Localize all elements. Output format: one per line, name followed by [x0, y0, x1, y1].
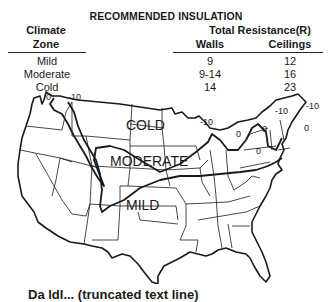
us-climate-zone-map: COLD MODERATE MILD 0 -10 -10 0 -10 -10 0… — [0, 84, 332, 284]
zone-label-cold: COLD — [126, 117, 165, 133]
isotherm-label: -10 — [200, 117, 213, 127]
walls-cell: 9 — [180, 54, 240, 68]
climate-zone-header-line1: Climate — [8, 23, 84, 37]
zone-cell: Mild — [8, 54, 86, 68]
climate-zone-header: Climate Zone — [8, 23, 84, 51]
ceilings-header: Ceilings — [255, 37, 325, 51]
total-resistance-header: Total Resistance(R) — [190, 23, 330, 37]
ceilings-cell: 12 — [255, 54, 325, 68]
zone-cell: Moderate — [8, 67, 86, 81]
isotherm-label: 0 — [262, 124, 267, 134]
walls-header: Walls — [180, 37, 240, 51]
isotherm-label: 0 — [256, 146, 261, 156]
isotherm-label: 0 — [46, 92, 51, 102]
zone-label-moderate: MODERATE — [110, 153, 188, 169]
zone-label-mild: MILD — [126, 197, 159, 213]
truncated-caption: Da ldl... (truncated text line) — [28, 287, 198, 302]
ceilings-cell: 16 — [255, 67, 325, 81]
isotherm-label: -10 — [68, 92, 81, 102]
table-row: Moderate 9-14 16 — [0, 67, 332, 81]
isotherm-label: -10 — [275, 106, 288, 116]
header-divider-left — [8, 52, 86, 53]
header-divider-right — [173, 52, 323, 53]
walls-cell: 9-14 — [180, 67, 240, 81]
table-row: Mild 9 12 — [0, 54, 332, 68]
page-title: RECOMMENDED INSULATION — [0, 10, 332, 22]
isotherm-label: 0 — [304, 123, 309, 133]
isotherm-label: 0 — [236, 129, 241, 139]
isotherm-label: -10 — [306, 101, 319, 111]
climate-zone-header-line2: Zone — [8, 37, 84, 51]
